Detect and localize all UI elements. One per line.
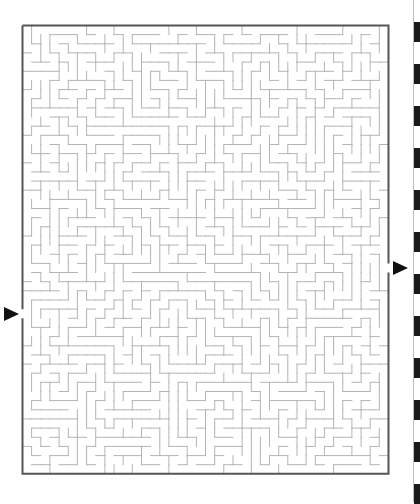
page-edge-stripes bbox=[413, 0, 420, 502]
edge-stripe bbox=[414, 316, 420, 336]
edge-stripe bbox=[414, 22, 420, 42]
edge-stripe bbox=[414, 64, 420, 84]
edge-stripe bbox=[414, 400, 420, 420]
edge-stripe bbox=[414, 274, 420, 294]
start-arrow-icon bbox=[4, 307, 19, 321]
edge-stripe bbox=[414, 358, 420, 378]
finish-arrow-icon bbox=[393, 261, 408, 275]
edge-stripe bbox=[414, 232, 420, 252]
edge-stripe bbox=[414, 484, 420, 504]
maze-walls bbox=[23, 26, 389, 474]
edge-stripe bbox=[414, 106, 420, 126]
edge-stripe bbox=[414, 190, 420, 210]
edge-stripe bbox=[414, 442, 420, 462]
edge-stripe bbox=[414, 148, 420, 168]
